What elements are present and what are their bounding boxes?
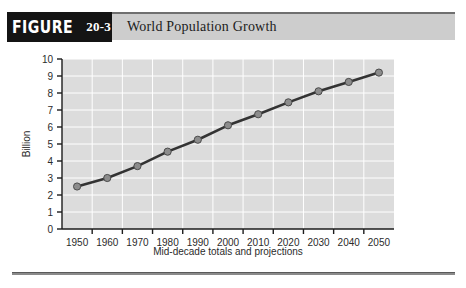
svg-text:2050: 2050 bbox=[368, 237, 391, 248]
svg-text:1960: 1960 bbox=[96, 237, 119, 248]
svg-text:2030: 2030 bbox=[307, 237, 330, 248]
svg-text:1: 1 bbox=[47, 207, 53, 218]
figure-number: 20-3 bbox=[86, 19, 111, 35]
svg-text:3: 3 bbox=[47, 173, 53, 184]
svg-text:8: 8 bbox=[47, 88, 53, 99]
figure-title: World Population Growth bbox=[127, 19, 277, 35]
figure-label: FIGURE bbox=[12, 16, 73, 37]
y-axis-tick-labels: 012345678910 bbox=[42, 54, 54, 235]
svg-text:9: 9 bbox=[47, 71, 53, 82]
svg-text:1950: 1950 bbox=[66, 237, 89, 248]
svg-text:5: 5 bbox=[47, 139, 53, 150]
chart-container: 012345678910 195019601970198019902000201… bbox=[0, 44, 466, 259]
y-axis-title: Billion bbox=[21, 131, 32, 158]
svg-text:10: 10 bbox=[42, 54, 54, 65]
svg-text:1970: 1970 bbox=[126, 237, 149, 248]
x-axis-ticks bbox=[92, 229, 364, 234]
bottom-divider bbox=[12, 272, 455, 275]
figure-title-bar: World Population Growth bbox=[112, 14, 455, 40]
line-chart: 012345678910 195019601970198019902000201… bbox=[0, 44, 466, 259]
svg-text:6: 6 bbox=[47, 122, 53, 133]
x-axis-title: Mid-decade totals and projections bbox=[153, 246, 303, 257]
svg-text:4: 4 bbox=[47, 156, 53, 167]
svg-text:2040: 2040 bbox=[338, 237, 361, 248]
y-axis-ticks bbox=[57, 59, 62, 229]
figure-tag-block: FIGURE 20-3 bbox=[7, 12, 112, 42]
svg-text:7: 7 bbox=[47, 105, 53, 116]
svg-text:0: 0 bbox=[47, 224, 53, 235]
figure-header: FIGURE 20-3 World Population Growth bbox=[0, 12, 466, 44]
svg-text:2: 2 bbox=[47, 190, 53, 201]
